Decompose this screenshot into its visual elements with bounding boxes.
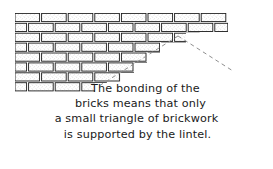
caption-line-3: a small triangle of brickwork xyxy=(0,111,273,126)
brick-row xyxy=(15,73,146,81)
brick-row xyxy=(15,23,228,31)
triangle-right-edge xyxy=(178,36,233,71)
brick-row xyxy=(15,63,160,71)
caption-line-2: bricks means that only xyxy=(8,96,273,111)
caption-line-4: is supported by the lintel. xyxy=(2,127,273,142)
caption: The bonding of the bricks means that onl… xyxy=(0,81,273,142)
brick-row xyxy=(15,43,186,51)
brick-wall-lintel-figure: The bonding of the bricks means that onl… xyxy=(0,0,273,169)
caption-line-1: The bonding of the xyxy=(18,81,273,96)
